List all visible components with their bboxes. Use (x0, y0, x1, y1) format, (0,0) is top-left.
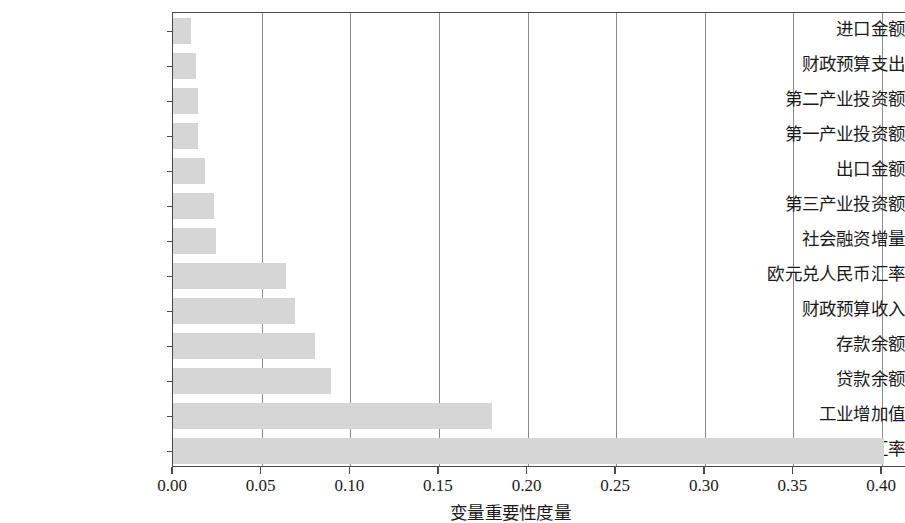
bar (173, 228, 216, 254)
bar-row (173, 223, 216, 258)
y-tick-label: 第二产业投资额 (739, 91, 905, 109)
x-tick-mark (526, 467, 528, 474)
x-tick-mark (437, 467, 439, 474)
x-tick-mark (792, 467, 794, 474)
bar-row (173, 118, 198, 153)
bar-row (173, 48, 196, 83)
x-tick-label: 0.05 (246, 476, 276, 496)
bar-row (173, 153, 205, 188)
bar (173, 298, 295, 324)
x-tick-mark (880, 467, 882, 474)
bar (173, 438, 884, 464)
y-tick-label: 第一产业投资额 (739, 126, 905, 144)
x-tick-label: 0.15 (423, 476, 453, 496)
x-axis-title: 变量重要性度量 (0, 499, 905, 523)
y-tick-label: 存款余额 (739, 336, 905, 354)
y-tick-label: 第三产业投资额 (739, 196, 905, 214)
x-tick-mark (349, 467, 351, 474)
bar (173, 53, 196, 79)
x-tick-mark (614, 467, 616, 474)
bar (173, 403, 492, 429)
gridline (528, 13, 529, 466)
bar-row (173, 328, 315, 363)
bar-row (173, 433, 884, 468)
x-tick-mark (171, 467, 173, 474)
bar-row (173, 293, 295, 328)
x-tick-mark (260, 467, 262, 474)
y-tick-label: 工业增加值 (739, 406, 905, 424)
y-tick-label: 欧元兑人民币汇率 (739, 266, 905, 284)
bar-row (173, 83, 198, 118)
bar (173, 368, 331, 394)
y-tick-label: 财政预算支出 (739, 56, 905, 74)
bar (173, 123, 198, 149)
gridline (616, 13, 617, 466)
x-tick-mark (703, 467, 705, 474)
y-tick-label: 社会融资增量 (739, 231, 905, 249)
variable-importance-bar-chart: 变量重要性度量 进口金额财政预算支出第二产业投资额第一产业投资额出口金额第三产业… (0, 0, 905, 523)
bar-row (173, 258, 286, 293)
x-tick-label: 0.20 (512, 476, 542, 496)
x-tick-label: 0.25 (600, 476, 630, 496)
y-tick-label: 出口金额 (739, 161, 905, 179)
x-tick-label: 0.40 (866, 476, 896, 496)
y-tick-label: 进口金额 (739, 21, 905, 39)
bar-row (173, 363, 331, 398)
bar (173, 333, 315, 359)
bar (173, 158, 205, 184)
x-tick-label: 0.30 (689, 476, 719, 496)
gridline (705, 13, 706, 466)
bar (173, 193, 214, 219)
y-tick-label: 财政预算收入 (739, 301, 905, 319)
bar (173, 88, 198, 114)
bar-row (173, 398, 492, 433)
bar-row (173, 188, 214, 223)
x-axis-title-text: 变量重要性度量 (450, 499, 571, 523)
bar-row (173, 13, 191, 48)
bar (173, 18, 191, 44)
bar (173, 263, 286, 289)
x-tick-label: 0.10 (334, 476, 364, 496)
y-tick-label: 贷款余额 (739, 371, 905, 389)
x-tick-label: 0.00 (157, 476, 187, 496)
x-tick-label: 0.35 (778, 476, 808, 496)
